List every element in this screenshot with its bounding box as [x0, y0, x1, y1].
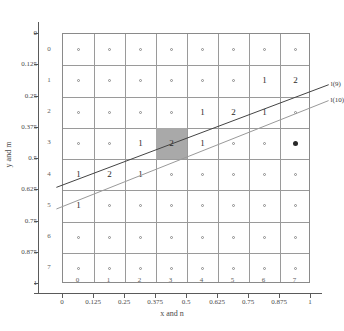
- grid-plot-figure: y and m x and n 00.1250.250.3750.50.6250…: [0, 0, 344, 331]
- boundary-line: [56, 101, 328, 209]
- line-label-1: l(9): [331, 81, 341, 88]
- line-label-2: l(10): [331, 97, 344, 104]
- boundary-line: [56, 85, 328, 188]
- diagonal-lines: [0, 0, 344, 331]
